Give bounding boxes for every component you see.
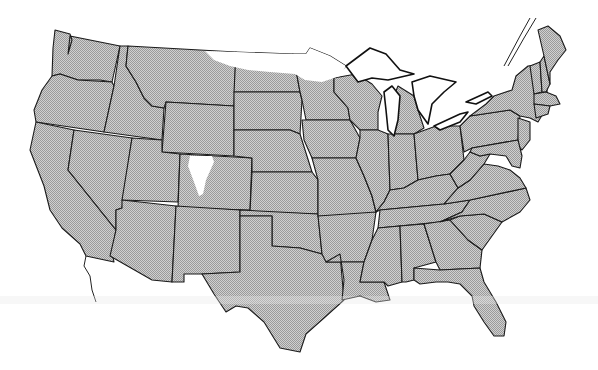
river-line xyxy=(508,18,536,66)
state-kansas xyxy=(250,172,318,214)
lake-superior xyxy=(346,48,414,82)
state-arizona xyxy=(110,200,176,282)
scan-artifact xyxy=(0,296,598,304)
river-line xyxy=(504,18,530,66)
state-wyoming xyxy=(162,102,234,156)
state-iowa xyxy=(302,120,360,158)
baja-border-line xyxy=(84,256,96,302)
state-new-mexico xyxy=(172,206,240,282)
state-massachusetts xyxy=(534,92,560,106)
state-south-dakota xyxy=(234,92,302,134)
us-map xyxy=(0,0,598,370)
state-oregon xyxy=(34,74,114,132)
us-map-svg xyxy=(0,0,598,370)
st-lawrence-river xyxy=(504,18,536,66)
state-indiana xyxy=(388,134,418,190)
state-connecticut xyxy=(534,104,550,118)
